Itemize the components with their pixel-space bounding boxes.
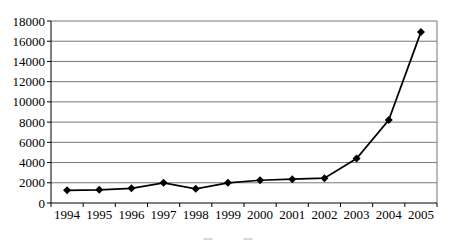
data-point-1999	[224, 179, 232, 187]
y-tick-label: 16000	[13, 34, 46, 49]
cutoff-caption-mark	[203, 238, 213, 240]
x-tick-label: 1999	[215, 207, 241, 222]
y-tick-label: 14000	[13, 54, 46, 69]
data-point-1995	[95, 186, 103, 194]
x-tick-label: 1996	[118, 207, 145, 222]
y-tick-label: 0	[39, 196, 46, 211]
data-point-2002	[320, 174, 328, 182]
y-tick-label: 4000	[19, 155, 45, 170]
x-tick-label: 2005	[408, 207, 434, 222]
x-tick-label: 1998	[183, 207, 209, 222]
y-tick-label: 8000	[19, 115, 45, 130]
x-tick-label: 1994	[54, 207, 81, 222]
data-point-2005	[417, 28, 425, 36]
data-point-1997	[160, 179, 168, 187]
y-tick-label: 2000	[19, 175, 45, 190]
line-chart: 0200040006000800010000120001400016000180…	[0, 0, 450, 242]
y-tick-label: 6000	[19, 135, 45, 150]
data-line	[67, 32, 421, 190]
x-tick-label: 2000	[247, 207, 273, 222]
x-tick-label: 2002	[311, 207, 337, 222]
data-point-1996	[127, 184, 135, 192]
y-tick-label: 18000	[13, 14, 46, 29]
cutoff-caption-mark	[243, 238, 253, 240]
y-tick-label: 12000	[13, 74, 46, 89]
data-point-1998	[192, 185, 200, 193]
x-tick-label: 1997	[151, 207, 178, 222]
chart-svg: 0200040006000800010000120001400016000180…	[0, 0, 450, 242]
x-tick-label: 2001	[279, 207, 305, 222]
data-point-2001	[288, 175, 296, 183]
y-tick-label: 10000	[13, 94, 46, 109]
data-point-1994	[63, 186, 71, 194]
x-tick-label: 1995	[86, 207, 112, 222]
x-tick-label: 2003	[344, 207, 370, 222]
x-tick-label: 2004	[376, 207, 403, 222]
